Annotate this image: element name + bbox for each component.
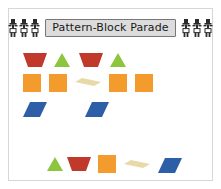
pattern-row-2 [9, 68, 212, 93]
marcher-figure-icon [8, 19, 18, 37]
marcher-figure-icon [181, 19, 191, 37]
pattern-row-3 [9, 93, 212, 118]
block-square[interactable] [23, 74, 41, 92]
block-trapezoid[interactable] [79, 53, 103, 67]
block-square[interactable] [109, 74, 127, 92]
pattern-row-1 [9, 43, 212, 68]
marching-band-figures-icon-right [181, 19, 213, 37]
block-parallelogram[interactable] [23, 102, 47, 117]
block-parallelogram[interactable] [158, 158, 182, 173]
marcher-figure-icon [203, 19, 213, 37]
title-plate: Pattern-Block Parade [45, 19, 175, 37]
block-square[interactable] [98, 155, 116, 173]
marcher-figure-icon [19, 19, 29, 37]
block-trapezoid[interactable] [23, 53, 47, 67]
block-rhombus[interactable] [75, 78, 101, 86]
marching-band-figures-icon-left [8, 19, 40, 37]
answer-row [9, 149, 212, 175]
block-triangle[interactable] [47, 157, 63, 171]
worksheet-page: Pattern-Block Parade [8, 8, 213, 181]
marcher-figure-icon [192, 19, 202, 37]
block-trapezoid[interactable] [67, 157, 91, 171]
block-square[interactable] [135, 74, 153, 92]
worksheet-header: Pattern-Block Parade [9, 15, 212, 41]
block-parallelogram[interactable] [85, 102, 109, 117]
pattern-rows [9, 43, 212, 118]
block-triangle[interactable] [110, 53, 126, 67]
marcher-figure-icon [30, 19, 40, 37]
page-title: Pattern-Block Parade [52, 21, 168, 34]
block-rhombus[interactable] [124, 160, 150, 168]
block-square[interactable] [49, 74, 67, 92]
block-triangle[interactable] [54, 53, 70, 67]
